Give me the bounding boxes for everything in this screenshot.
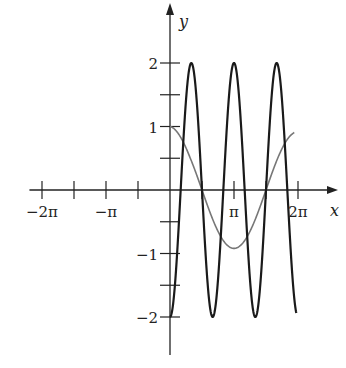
plot-canvas: −2π−ππ2π21−1−2xy — [0, 0, 346, 368]
x-tick-label: −2π — [26, 203, 58, 221]
function-plot: −2π−ππ2π21−1−2xy — [0, 0, 346, 368]
y-tick-label: 1 — [148, 119, 158, 137]
y-axis-label: y — [178, 12, 189, 31]
y-tick-label: −2 — [136, 309, 158, 327]
y-tick-label: −1 — [136, 246, 158, 264]
y-tick-label: 2 — [148, 55, 158, 73]
x-axis-arrow-icon — [327, 186, 338, 194]
cosine-curve — [170, 127, 294, 249]
x-tick-label: −π — [95, 203, 118, 221]
y-axis-arrow-icon — [166, 3, 174, 15]
axes — [29, 3, 338, 355]
x-tick-label: 2π — [288, 203, 308, 221]
x-axis-label: x — [330, 201, 339, 220]
x-tick-label: π — [229, 203, 239, 221]
